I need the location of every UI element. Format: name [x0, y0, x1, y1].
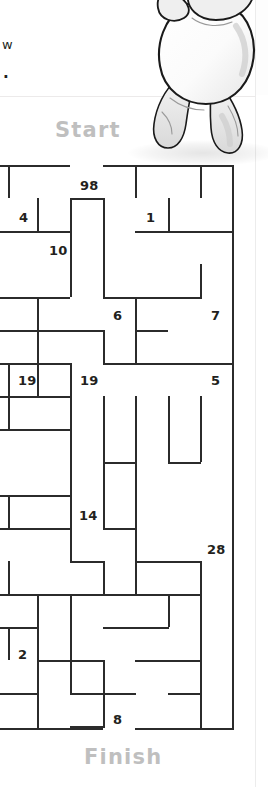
maze-cell-number: 4: [19, 210, 28, 225]
maze-wall-vertical: [37, 297, 39, 363]
maze-wall-horizontal: [135, 561, 201, 563]
maze-wall-horizontal: [103, 627, 169, 629]
cropped-text-fragment-2: .: [3, 66, 9, 80]
maze-wall-vertical: [70, 198, 72, 297]
maze-wall-horizontal: [0, 693, 37, 695]
maze-wall-vertical: [8, 165, 10, 198]
maze-wall-vertical: [37, 363, 39, 396]
maze-cell-number: 5: [211, 373, 220, 388]
maze-wall-horizontal: [37, 363, 70, 365]
maze-wall-horizontal: [37, 297, 70, 299]
maze-wall-horizontal: [0, 594, 37, 596]
maze-wall-horizontal: [70, 330, 103, 332]
maze-wall-horizontal: [103, 462, 136, 464]
maze-cell-number: 19: [18, 373, 37, 388]
maze-wall-horizontal: [168, 462, 201, 464]
maze-wall-horizontal: [0, 231, 37, 233]
maze-cell-number: 98: [80, 178, 99, 193]
maze-wall-vertical: [135, 396, 137, 594]
maze-wall-horizontal: [0, 728, 103, 730]
finish-label: Finish: [84, 745, 162, 769]
maze-wall-vertical: [8, 495, 10, 528]
maze-wall-vertical: [8, 396, 10, 429]
maze-wall-horizontal: [103, 297, 202, 299]
maze-wall-vertical: [37, 594, 39, 728]
maze-wall-vertical: [168, 396, 170, 462]
maze-wall-vertical: [8, 627, 10, 660]
maze-wall-horizontal: [37, 231, 70, 233]
maze-wall-horizontal: [135, 330, 168, 332]
maze-wall-horizontal: [103, 594, 202, 596]
maze-cell-number: 10: [49, 243, 68, 258]
maze-wall-vertical: [232, 165, 234, 728]
maze-wall-horizontal: [168, 693, 201, 695]
maze-wall-vertical: [135, 297, 137, 363]
maze-cell-number: 7: [211, 308, 220, 323]
maze-wall-vertical: [103, 198, 105, 297]
maze-wall-horizontal: [0, 429, 70, 431]
maze-wall-vertical: [103, 495, 105, 528]
maze-wall-horizontal: [0, 528, 70, 530]
maze-cell-number: 8: [113, 712, 122, 727]
maze-wall-vertical: [200, 396, 202, 462]
maze-cell-number: 1: [146, 210, 155, 225]
maze-wall-horizontal: [0, 396, 70, 398]
maze-wall-vertical: [103, 660, 105, 728]
maze-wall-vertical: [103, 330, 105, 363]
maze-wall-vertical: [200, 264, 202, 297]
maze-wall-horizontal: [0, 495, 70, 497]
maze-cell-number: 19: [80, 373, 99, 388]
maze-wall-horizontal: [135, 660, 201, 662]
maze-wall-vertical: [168, 198, 170, 231]
maze-wall-horizontal: [103, 165, 234, 167]
maze-wall-horizontal: [0, 363, 37, 365]
maze-wall-horizontal: [0, 627, 37, 629]
maze-cell-number: 28: [207, 542, 226, 557]
maze-puzzle: 9841106719195142828: [0, 160, 268, 740]
maze-wall-vertical: [103, 396, 105, 495]
maze-wall-vertical: [70, 363, 72, 561]
maze-wall-horizontal: [103, 693, 136, 695]
maze-wall-horizontal: [103, 528, 136, 530]
maze-wall-vertical: [200, 561, 202, 728]
maze-wall-vertical: [8, 561, 10, 594]
maze-wall-horizontal: [70, 561, 103, 563]
cartoon-hippo-icon: [118, 0, 268, 171]
maze-wall-horizontal: [70, 693, 103, 695]
maze-wall-vertical: [168, 594, 170, 627]
maze-wall-vertical: [135, 165, 137, 198]
maze-wall-vertical: [70, 627, 72, 693]
maze-wall-horizontal: [103, 363, 234, 365]
maze-wall-horizontal: [70, 198, 103, 200]
maze-cell-number: 2: [18, 647, 27, 662]
cropped-text-fragment-1: w: [2, 38, 13, 52]
maze-wall-horizontal: [135, 728, 234, 730]
maze-wall-vertical: [200, 165, 202, 198]
maze-wall-horizontal: [0, 330, 37, 332]
maze-wall-horizontal: [37, 330, 70, 332]
maze-wall-horizontal: [0, 165, 70, 167]
maze-wall-horizontal: [135, 231, 234, 233]
worksheet-page: w .: [0, 0, 268, 787]
maze-cell-number: 14: [79, 508, 98, 523]
maze-cell-number: 6: [113, 308, 122, 323]
maze-wall-horizontal: [0, 297, 37, 299]
maze-wall-vertical: [70, 594, 72, 627]
maze-wall-vertical: [37, 198, 39, 231]
start-label: Start: [55, 118, 121, 142]
maze-wall-vertical: [8, 363, 10, 396]
maze-wall-vertical: [103, 561, 105, 594]
